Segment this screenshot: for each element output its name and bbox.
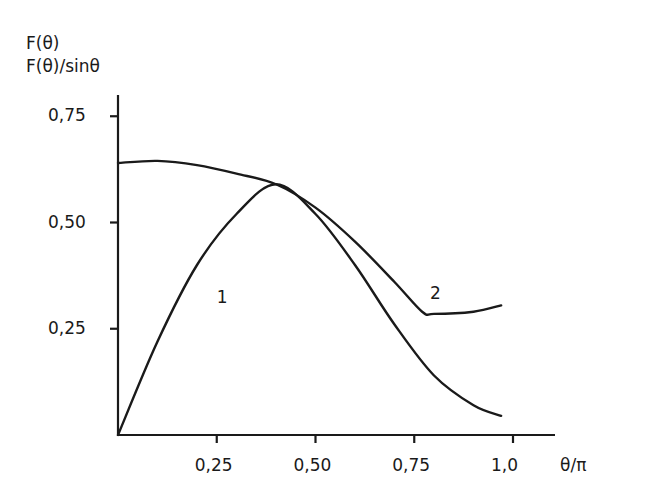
curve-label-2: 2 [430, 283, 441, 303]
x-tick-label: 1,0 [491, 455, 518, 475]
y-axis-label-2: F(θ)/sinθ [26, 56, 100, 76]
curve-2 [118, 161, 501, 315]
x-tick-label: 0,75 [392, 455, 430, 475]
y-tick-label: 0,50 [48, 212, 86, 232]
axes [110, 95, 555, 443]
x-tick-label: 0,25 [195, 455, 233, 475]
curve-1 [118, 184, 501, 435]
curves [118, 161, 501, 435]
y-axis-label-1: F(θ) [26, 33, 59, 53]
x-tick-label: 0,50 [294, 455, 332, 475]
x-axis-label: θ/π [560, 455, 586, 475]
curve-label-1: 1 [217, 287, 228, 307]
y-tick-label: 0,75 [48, 105, 86, 125]
y-tick-label: 0,25 [48, 318, 86, 338]
